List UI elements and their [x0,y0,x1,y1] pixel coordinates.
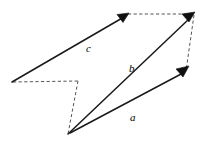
vector-shafts-group [12,17,189,134]
vector-label-b: b [129,63,135,74]
vector-diagram-figure: c b a [0,0,207,145]
dashed-left-edge [13,81,78,82]
vector-label-c: c [86,43,91,54]
vector-label-a: a [130,112,136,123]
vector-c-shaft [12,17,124,82]
vector-canvas [0,0,207,145]
vector-a-shaft [70,73,183,133]
vector-b-arrowhead [182,12,195,22]
dashed-right-edge [186,15,194,71]
vector-c-arrowhead [117,13,129,23]
vector-b-shaft [68,19,189,134]
